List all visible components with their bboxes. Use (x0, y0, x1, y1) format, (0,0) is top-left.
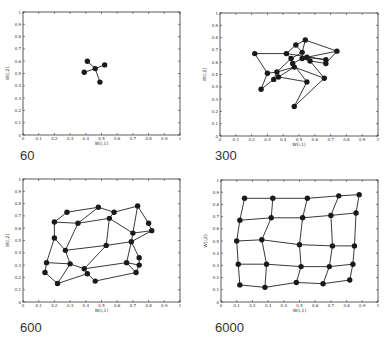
y-tick-label: 0.7 (213, 214, 220, 219)
node-marker (124, 260, 129, 265)
node-marker (133, 270, 138, 275)
node-marker (322, 75, 327, 80)
x-tick-label: 1 (377, 137, 380, 142)
y-tick-label: 0.7 (212, 47, 219, 52)
y-tick-label: 1 (18, 10, 21, 15)
y-tick-label: 1 (18, 177, 21, 182)
node-marker (55, 281, 60, 286)
y-tick-label: 0.3 (212, 97, 219, 102)
x-tick-label: 0.9 (359, 137, 366, 142)
y-tick-label: 1 (215, 11, 218, 16)
node-marker (130, 230, 135, 235)
node-marker (292, 104, 297, 109)
y-tick-label: 0.2 (212, 109, 219, 114)
x-tick-label: 0.9 (161, 303, 168, 308)
y-tick-label: 0.9 (15, 189, 22, 194)
node-marker (303, 37, 308, 42)
node-marker (97, 79, 102, 84)
x-tick-label: 0.7 (130, 136, 137, 141)
caption-6000: 6000 (215, 320, 244, 335)
node-marker (270, 196, 275, 201)
node-marker (284, 51, 289, 56)
node-marker (304, 79, 309, 84)
x-tick-label: 0.4 (83, 303, 90, 308)
network-nodes (42, 203, 154, 286)
node-marker (236, 261, 241, 266)
node-marker (299, 56, 304, 61)
node-marker (305, 196, 310, 201)
y-tick-label: 0.1 (15, 120, 22, 125)
y-tick-label: 0.6 (15, 226, 22, 231)
panel-300: 00.10.20.30.40.50.60.70.80.9100.10.20.30… (195, 0, 390, 172)
x-tick-label: 0 (22, 136, 25, 141)
node-marker (307, 58, 312, 63)
node-marker (85, 271, 90, 276)
y-tick-label: 0.3 (15, 263, 22, 268)
node-marker (330, 243, 335, 248)
network-edges (237, 195, 359, 288)
y-tick-label: 0.8 (15, 201, 22, 206)
node-marker (234, 238, 239, 243)
y-tick-label: 0.5 (15, 238, 22, 243)
node-marker (327, 264, 332, 269)
node-marker (356, 192, 361, 197)
node-marker (93, 278, 98, 283)
node-marker (111, 210, 116, 215)
x-tick-label: 0.7 (327, 137, 334, 142)
y-tick-label: 0.2 (15, 108, 22, 113)
y-tick-label: 0.3 (15, 96, 22, 101)
plot-6000: 00.10.20.30.40.50.60.70.80.9100.10.20.30… (195, 172, 390, 344)
node-marker (107, 216, 112, 221)
x-tick-label: 0.6 (114, 136, 121, 141)
node-marker (75, 221, 80, 226)
node-marker (352, 243, 357, 248)
node-marker (299, 50, 304, 55)
x-tick-label: 0.6 (114, 303, 121, 308)
x-tick-label: 0.9 (161, 136, 168, 141)
axes-frame (220, 13, 378, 136)
panel-60: 00.10.20.30.40.50.60.70.80.9100.10.20.30… (0, 0, 195, 172)
x-tick-label: 0.2 (249, 303, 256, 308)
y-tick-label: 0.5 (213, 239, 220, 244)
x-tick-label: 0 (219, 137, 222, 142)
x-tick-label: 0 (220, 303, 223, 308)
y-tick-label: 0.7 (15, 213, 22, 218)
node-marker (237, 282, 242, 287)
node-marker (136, 255, 141, 260)
node-marker (85, 59, 90, 64)
node-marker (104, 243, 109, 248)
node-marker (262, 285, 267, 290)
y-tick-label: 0.2 (213, 275, 220, 280)
node-marker (149, 228, 154, 233)
node-marker (320, 281, 325, 286)
node-marker (252, 51, 257, 56)
node-marker (276, 74, 281, 79)
y-tick-label: 0.5 (212, 72, 219, 77)
x-tick-label: 0.2 (51, 303, 58, 308)
axes-frame (23, 179, 180, 302)
node-marker (292, 64, 297, 69)
node-marker (271, 77, 276, 82)
x-tick-label: 0 (22, 303, 25, 308)
y-tick-label: 0.5 (15, 71, 22, 76)
node-marker (328, 213, 333, 218)
node-marker (347, 277, 352, 282)
x-tick-label: 0.4 (280, 137, 287, 142)
plot-600: 00.10.20.30.40.50.60.70.80.9100.10.20.30… (0, 172, 195, 344)
node-marker (242, 196, 247, 201)
y-axis-label: W(i,2) (5, 67, 10, 81)
x-tick-label: 0.8 (343, 303, 350, 308)
node-marker (297, 242, 302, 247)
y-tick-label: 0.4 (212, 84, 219, 89)
node-marker (96, 205, 101, 210)
x-tick-label: 0.3 (265, 303, 272, 308)
node-marker (288, 56, 293, 61)
x-tick-label: 0.8 (145, 303, 152, 308)
y-tick-label: 0.4 (15, 250, 22, 255)
y-tick-label: 0.1 (212, 121, 219, 126)
node-marker (259, 237, 264, 242)
node-marker (67, 261, 72, 266)
y-tick-label: 0.9 (212, 23, 219, 28)
x-tick-label: 0.2 (248, 137, 255, 142)
node-marker (129, 239, 134, 244)
